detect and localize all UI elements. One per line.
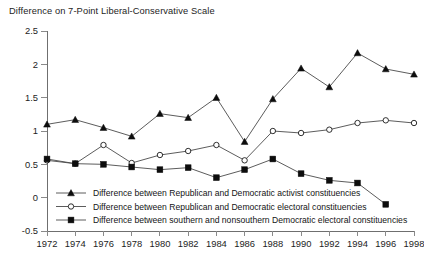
y-tick-label: 1 — [33, 125, 38, 136]
marker-circle — [270, 128, 275, 133]
marker-square — [185, 165, 191, 171]
marker-triangle — [241, 138, 248, 144]
marker-circle — [101, 142, 106, 147]
marker-square — [101, 161, 107, 167]
chart-plot-area: 2.521.510.50-0.5 19721974197619781980198… — [0, 0, 424, 259]
x-tick-label: 1994 — [347, 238, 368, 249]
series-1 — [44, 50, 418, 145]
legend-label: Difference between southern and nonsouth… — [93, 215, 407, 225]
y-tick-label: 2.5 — [25, 25, 38, 36]
y-tick-label: 2 — [33, 59, 38, 70]
chart-series-layer — [44, 50, 418, 208]
marker-triangle — [213, 94, 220, 100]
marker-triangle — [382, 66, 389, 72]
series-3 — [44, 156, 389, 207]
marker-square — [383, 201, 389, 207]
marker-circle — [411, 120, 416, 125]
x-tick-label: 1990 — [291, 238, 312, 249]
marker-circle — [383, 118, 388, 123]
marker-square — [68, 217, 74, 223]
marker-square — [129, 164, 135, 170]
legend-label: Difference between Republican and Democr… — [93, 202, 367, 212]
x-tick-label: 1978 — [121, 238, 142, 249]
marker-square — [270, 156, 276, 162]
marker-circle — [185, 148, 190, 153]
x-tick-label: 1974 — [65, 238, 86, 249]
marker-circle — [157, 152, 162, 157]
x-tick-label: 1992 — [319, 238, 340, 249]
marker-square — [157, 167, 163, 173]
y-tick-label: -0.5 — [22, 225, 38, 236]
legend-item-1: Difference between Republican and Democr… — [56, 188, 360, 198]
y-tick-label: 0 — [33, 192, 38, 203]
x-tick-label: 1988 — [262, 238, 283, 249]
y-tick-label: 1.5 — [25, 92, 38, 103]
marker-square — [355, 180, 361, 186]
marker-circle — [327, 127, 332, 132]
x-axis-tick-labels: 1972197419761978198019821984198619881990… — [37, 238, 424, 249]
chart-container: Difference on 7-Point Liberal-Conservati… — [0, 0, 424, 259]
marker-square — [213, 175, 219, 181]
marker-circle — [298, 130, 303, 135]
y-tick-label: 0.5 — [25, 159, 38, 170]
marker-triangle — [157, 110, 164, 116]
marker-square — [242, 167, 248, 173]
series-2 — [44, 118, 416, 167]
marker-triangle — [354, 50, 361, 56]
y-axis-tick-labels: 2.521.510.50-0.5 — [22, 25, 38, 236]
x-tick-label: 1984 — [206, 238, 227, 249]
legend-item-3: Difference between southern and nonsouth… — [56, 215, 407, 225]
marker-square — [326, 177, 332, 183]
x-tick-label: 1998 — [404, 238, 424, 249]
marker-square — [72, 161, 78, 167]
x-tick-label: 1986 — [234, 238, 255, 249]
marker-circle — [355, 120, 360, 125]
x-tick-label: 1976 — [93, 238, 114, 249]
marker-triangle — [72, 116, 79, 122]
marker-circle — [68, 204, 73, 209]
marker-square — [298, 171, 304, 177]
chart-legend: Difference between Republican and Democr… — [56, 188, 407, 225]
legend-item-2: Difference between Republican and Democr… — [56, 202, 367, 212]
marker-circle — [242, 158, 247, 163]
x-tick-label: 1980 — [149, 238, 170, 249]
x-tick-label: 1972 — [37, 238, 58, 249]
x-tick-label: 1996 — [375, 238, 396, 249]
marker-square — [44, 156, 50, 162]
x-tick-label: 1982 — [178, 238, 199, 249]
marker-circle — [214, 142, 219, 147]
legend-label: Difference between Republican and Democr… — [93, 188, 360, 198]
marker-triangle — [298, 65, 305, 71]
